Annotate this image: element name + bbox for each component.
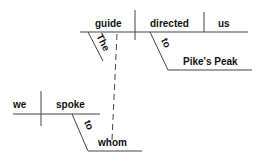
word-whom: whom xyxy=(97,137,127,148)
word-spoke: spoke xyxy=(56,99,85,110)
sentence-diagram: guide directed us The to Pike's Peak we … xyxy=(0,0,256,162)
word-directed: directed xyxy=(150,18,189,29)
word-us: us xyxy=(218,18,230,29)
word-guide: guide xyxy=(95,18,122,29)
relative-connector-dashed xyxy=(112,34,117,140)
preposition-slant-relative xyxy=(72,114,88,151)
word-to-relative: to xyxy=(82,118,96,131)
word-we: we xyxy=(12,99,27,110)
word-pikes-peak: Pike's Peak xyxy=(183,56,238,67)
word-to-main: to xyxy=(159,36,173,49)
